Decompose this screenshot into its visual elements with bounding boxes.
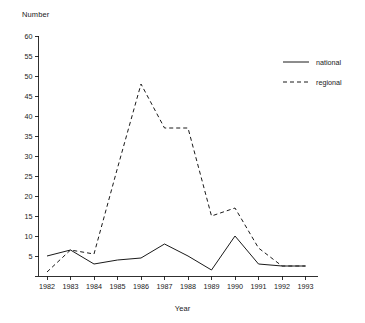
x-axis-tick-label: 1987 [157, 282, 173, 291]
x-axis-tick-label: 1982 [39, 282, 55, 291]
x-axis-tick-label: 1983 [63, 282, 79, 291]
x-axis-tick-label: 1985 [110, 282, 126, 291]
y-axis-tick-label: 40 [25, 112, 33, 121]
y-axis: 51015202530354045505560 [25, 32, 39, 276]
series-line-national [47, 236, 306, 270]
x-axis-tick-label: 1989 [204, 282, 220, 291]
x-axis-tick-label: 1991 [251, 282, 267, 291]
y-axis-tick-label: 50 [25, 72, 33, 81]
y-axis-tick-label: 20 [25, 192, 33, 201]
y-axis-tick-label: 10 [25, 232, 33, 241]
y-axis-tick-label: 45 [25, 92, 33, 101]
y-axis-tick-label: 35 [25, 132, 33, 141]
x-axis-tick-label: 1988 [180, 282, 196, 291]
data-series-group [47, 84, 306, 272]
chart-plot-area: 51015202530354045505560 1982198319841985… [0, 0, 365, 323]
legend-label-national: national [316, 58, 342, 67]
x-axis-tick-label: 1984 [86, 282, 102, 291]
y-axis-tick-label: 55 [25, 52, 33, 61]
x-axis: 1982198319841985198619871988198919901991… [39, 276, 319, 291]
y-axis-tick-label: 25 [25, 172, 33, 181]
x-axis-tick-label: 1992 [274, 282, 290, 291]
y-axis-tick-label: 30 [25, 152, 33, 161]
y-axis-tick-label: 5 [29, 252, 33, 261]
line-chart: Number Year 51015202530354045505560 1982… [0, 0, 365, 323]
x-axis-tick-label: 1993 [298, 282, 314, 291]
chart-legend: nationalregional [283, 58, 342, 87]
y-axis-tick-label: 15 [25, 212, 33, 221]
x-axis-tick-label: 1986 [133, 282, 149, 291]
x-axis-tick-label: 1990 [227, 282, 243, 291]
series-line-regional [47, 84, 306, 272]
legend-label-regional: regional [316, 78, 342, 87]
y-axis-tick-label: 60 [25, 32, 33, 41]
